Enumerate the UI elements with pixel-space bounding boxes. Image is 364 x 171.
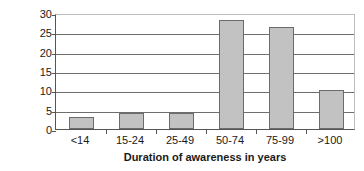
x-axis-tick-labels: <1415-2425-4950-7475-99>100 xyxy=(55,133,355,149)
bar xyxy=(219,20,244,129)
plot-area xyxy=(55,14,355,130)
bar xyxy=(269,27,294,129)
x-axis-tick-label: 75-99 xyxy=(255,133,305,147)
y-axis-tick-label: 5 xyxy=(26,106,52,117)
x-axis-tick-label: 15-24 xyxy=(105,133,155,147)
x-axis-tick-label: 25-49 xyxy=(155,133,205,147)
y-axis-tick-label: 30 xyxy=(26,9,52,20)
y-axis-tick-label: 15 xyxy=(26,67,52,78)
bar xyxy=(69,117,94,129)
y-axis-tick-label: 10 xyxy=(26,86,52,97)
x-axis-tick-label: <14 xyxy=(55,133,105,147)
bars-group xyxy=(56,15,354,129)
x-axis-title: Duration of awareness in years xyxy=(55,150,355,164)
bar xyxy=(319,90,344,129)
bar xyxy=(169,113,194,129)
x-axis-tick-label: 50-74 xyxy=(205,133,255,147)
y-axis-tick-label: 20 xyxy=(26,48,52,59)
x-axis-tick-label: >100 xyxy=(305,133,355,147)
y-axis-tick-label: 0 xyxy=(26,125,52,136)
bar xyxy=(119,113,144,129)
bar-chart: Percent 302520151050 <1415-2425-4950-747… xyxy=(0,0,364,171)
y-axis-tick-label: 25 xyxy=(26,28,52,39)
y-axis-tick-mark xyxy=(52,131,56,132)
y-axis-tick-labels: 302520151050 xyxy=(26,8,52,136)
